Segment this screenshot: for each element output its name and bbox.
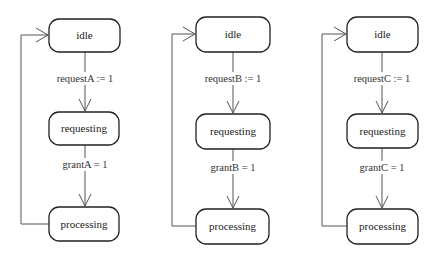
edge-label: grantC = 1	[360, 162, 405, 173]
state-label: requesting	[360, 125, 406, 137]
state-label: requesting	[210, 125, 256, 137]
state-label: processing	[60, 218, 108, 230]
state-label: idle	[374, 28, 391, 40]
edge-label: requestA := 1	[57, 73, 114, 84]
state-diagram: requestA := 1 grantA = 1 idle requesting…	[0, 0, 441, 260]
state-label: processing	[359, 220, 407, 232]
state-machine-b: requestB := 1 grantB = 1 idle requesting…	[172, 17, 270, 244]
state-machine-a: requestA := 1 grantA = 1 idle requesting…	[21, 19, 120, 241]
edge-label: requestC := 1	[354, 73, 411, 84]
edge-label: requestB := 1	[205, 73, 262, 84]
loop-edge-c	[322, 34, 347, 226]
state-label: idle	[76, 29, 93, 41]
state-label: requesting	[61, 122, 107, 134]
state-label: idle	[225, 28, 242, 40]
loop-edge-b	[172, 34, 196, 226]
edge-label: grantB = 1	[211, 162, 256, 173]
loop-edge-a	[21, 35, 49, 224]
state-label: processing	[209, 220, 257, 232]
state-machine-c: requestC := 1 grantC = 1 idle requesting…	[322, 17, 418, 244]
edge-label: grantA = 1	[63, 159, 108, 170]
